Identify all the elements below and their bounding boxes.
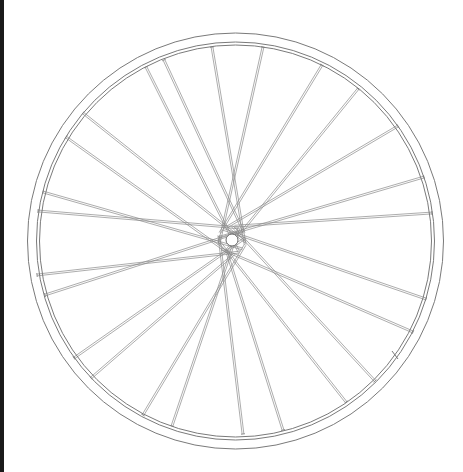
spoke-6 — [228, 127, 399, 228]
spoke-4 — [219, 65, 321, 233]
spoke-9 — [218, 176, 424, 237]
spoke-15 — [223, 230, 426, 300]
spoke-9 — [218, 178, 424, 239]
spoke-21 — [144, 245, 246, 415]
spoke-0 — [211, 47, 244, 245]
hub-group — [226, 234, 238, 246]
spoke-1 — [220, 47, 264, 245]
spoke-14 — [45, 232, 243, 296]
wheel-drawing-canvas: Line drawing of a bicycle wheel — [0, 0, 463, 472]
spoke-3 — [147, 67, 240, 252]
spoke-20 — [219, 239, 347, 401]
spoke-1 — [218, 47, 262, 245]
spoke-7 — [82, 114, 245, 243]
spoke-18 — [92, 254, 235, 378]
spoke-18 — [90, 253, 233, 377]
spoke-17 — [73, 237, 245, 357]
spoke-24 — [226, 253, 282, 430]
spoke-2 — [165, 60, 245, 233]
spoke-8 — [67, 136, 231, 253]
spoke-19 — [233, 225, 376, 380]
spoke-5 — [224, 88, 357, 251]
spoke-15 — [223, 228, 426, 298]
spoke-19 — [231, 227, 374, 382]
bicycle-wheel-illustration — [0, 0, 463, 472]
hub-axle — [226, 234, 238, 246]
spoke-22 — [171, 228, 238, 426]
spoke-12 — [38, 210, 239, 227]
spoke-10 — [234, 214, 432, 227]
spoke-20 — [217, 241, 345, 403]
spoke-10 — [234, 212, 432, 225]
spoke-24 — [228, 253, 284, 430]
